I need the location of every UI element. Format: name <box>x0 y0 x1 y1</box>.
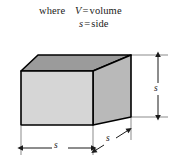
cube-front-face <box>21 71 93 125</box>
dimension-label-width: s <box>54 140 58 150</box>
cube-solid <box>21 55 131 125</box>
volume-of-cube-figure: where V=volume s=side <box>0 0 172 162</box>
dimension-line-depth <box>96 131 127 150</box>
dimension-label-height: s <box>154 83 158 93</box>
dimension-label-depth: s <box>106 133 110 143</box>
cube-svg <box>0 0 172 162</box>
cube-drawing: s s s <box>0 0 172 162</box>
